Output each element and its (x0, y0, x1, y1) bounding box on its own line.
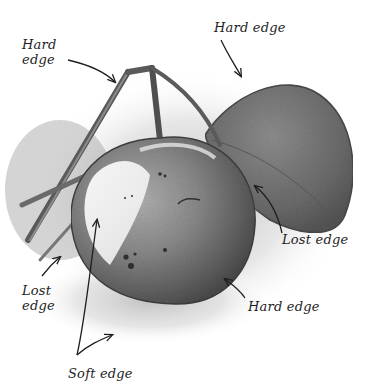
arrow-hard-edge-top-left (68, 60, 115, 82)
label-hard-edge-top-left: Hard edge (22, 37, 56, 67)
label-lost-edge-left: Lost edge (22, 283, 55, 313)
label-lost-edge-right: Lost edge (282, 232, 348, 247)
apple-edge-illustration: Hard edge Hard edge Lost edge Hard edge … (0, 0, 377, 389)
arrow-hard-edge-top-right (221, 40, 241, 76)
label-soft-edge: Soft edge (68, 366, 133, 381)
pencil-drawing (0, 0, 377, 389)
label-hard-edge-top-right: Hard edge (214, 20, 286, 35)
label-hard-edge-bottom-right: Hard edge (248, 299, 320, 314)
apple (71, 137, 255, 304)
